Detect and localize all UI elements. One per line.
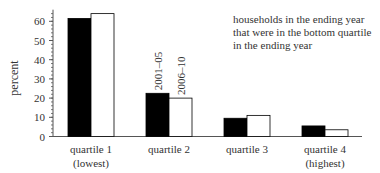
- bar: [146, 93, 169, 136]
- series-label: 2006–10: [175, 56, 187, 95]
- bar-chart: 0102030405060 2001–052006–10 quartile 1(…: [0, 0, 380, 173]
- annotation-line: households in the ending year: [233, 13, 365, 25]
- y-tick-label: 30: [34, 73, 46, 85]
- y-tick-label: 60: [34, 15, 46, 27]
- bar: [169, 98, 192, 136]
- x-tick-label: (lowest): [73, 157, 109, 170]
- y-tick-label: 50: [34, 35, 46, 47]
- y-tick-label: 10: [34, 111, 46, 123]
- x-tick-label: quartile 4: [304, 143, 346, 155]
- y-axis-label: percent: [7, 60, 21, 96]
- bar: [68, 18, 91, 136]
- bar: [224, 118, 247, 136]
- y-tick-label: 40: [34, 54, 46, 66]
- bar: [91, 14, 114, 137]
- y-tick-label: 0: [40, 131, 46, 143]
- series-label: 2001–05: [152, 51, 164, 90]
- x-tick-label: quartile 2: [148, 143, 190, 155]
- bar: [247, 115, 270, 136]
- bar: [325, 130, 348, 137]
- bar: [302, 126, 325, 137]
- y-tick-label: 20: [34, 92, 46, 104]
- annotation-line: in the ending year: [233, 39, 312, 51]
- x-axis-labels: quartile 1(lowest)quartile 2quartile 3qu…: [70, 143, 346, 170]
- x-tick-label: quartile 1: [70, 143, 112, 155]
- annotation: households in the ending yearthat were i…: [233, 13, 371, 51]
- x-tick-label: quartile 3: [226, 143, 268, 155]
- annotation-line: that were in the bottom quartile: [233, 26, 371, 38]
- x-tick-label: (highest): [305, 157, 344, 170]
